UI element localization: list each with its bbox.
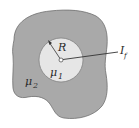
outer-permeability-label: μ <box>25 75 32 88</box>
current-wire-icon <box>59 58 63 62</box>
radius-label: R <box>57 41 66 54</box>
inner-permeability-label: μ <box>50 66 57 79</box>
inner-permeability-subscript: 1 <box>58 72 63 81</box>
free-current-subscript: f <box>123 52 128 60</box>
magnetic-media-diagram: R μ 1 μ 2 I f <box>0 0 139 128</box>
outer-permeability-subscript: 2 <box>32 81 38 90</box>
